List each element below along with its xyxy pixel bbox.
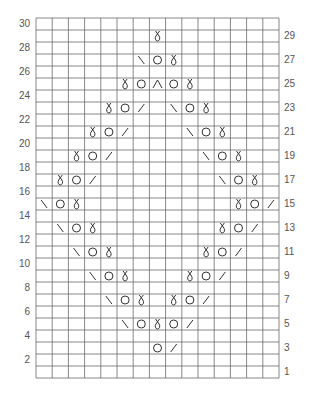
right-decrease-icon <box>252 224 258 232</box>
yarn-over-icon <box>121 296 129 304</box>
row-label: 9 <box>284 270 304 282</box>
row-label: 20 <box>0 138 30 150</box>
twisted-stitch-icon <box>123 271 128 281</box>
twisted-stitch-icon <box>58 175 63 185</box>
row-label: 5 <box>284 318 304 330</box>
row-label: 27 <box>284 54 304 66</box>
row-label: 23 <box>284 102 304 114</box>
yarn-over-icon <box>218 248 226 256</box>
row-label: 24 <box>0 90 30 102</box>
yarn-over-icon <box>170 320 178 328</box>
twisted-stitch-icon <box>90 223 95 233</box>
left-decrease-icon <box>171 104 177 112</box>
row-label: 8 <box>0 282 30 294</box>
yarn-over-icon <box>105 272 113 280</box>
left-decrease-icon <box>122 320 128 328</box>
twisted-stitch-icon <box>155 319 160 329</box>
twisted-stitch-icon <box>123 79 128 89</box>
twisted-stitch-icon <box>90 127 95 137</box>
left-decrease-icon <box>203 152 209 160</box>
twisted-stitch-icon <box>220 127 225 137</box>
grid-lines <box>36 18 279 378</box>
right-decrease-icon <box>138 104 144 112</box>
twisted-stitch-icon <box>252 175 257 185</box>
row-label: 12 <box>0 234 30 246</box>
row-label: 19 <box>284 150 304 162</box>
twisted-stitch-icon <box>74 151 79 161</box>
row-label: 3 <box>284 342 304 354</box>
row-label: 14 <box>0 210 30 222</box>
row-label: 17 <box>284 174 304 186</box>
row-label: 21 <box>284 126 304 138</box>
yarn-over-icon <box>202 128 210 136</box>
row-label: 18 <box>0 162 30 174</box>
yarn-over-icon <box>154 344 162 352</box>
yarn-over-icon <box>218 152 226 160</box>
twisted-stitch-icon <box>74 199 79 209</box>
yarn-over-icon <box>105 128 113 136</box>
left-decrease-icon <box>74 248 80 256</box>
yarn-over-icon <box>251 200 259 208</box>
yarn-over-icon <box>89 152 97 160</box>
row-label: 2 <box>0 354 30 366</box>
yarn-over-icon <box>170 80 178 88</box>
row-label: 4 <box>0 330 30 342</box>
twisted-stitch-icon <box>204 103 209 113</box>
right-decrease-icon <box>268 200 274 208</box>
yarn-over-icon <box>56 200 64 208</box>
right-decrease-icon <box>219 272 225 280</box>
left-decrease-icon <box>138 56 144 64</box>
row-label: 11 <box>284 246 304 258</box>
twisted-stitch-icon <box>188 271 193 281</box>
row-label: 30 <box>0 18 30 30</box>
twisted-stitch-icon <box>220 223 225 233</box>
yarn-over-icon <box>137 320 145 328</box>
yarn-over-icon <box>235 224 243 232</box>
yarn-over-icon <box>137 80 145 88</box>
right-decrease-icon <box>122 128 128 136</box>
row-label: 6 <box>0 306 30 318</box>
row-label: 22 <box>0 114 30 126</box>
row-label: 25 <box>284 78 304 90</box>
twisted-stitch-icon <box>204 247 209 257</box>
row-label: 29 <box>284 30 304 42</box>
chart-svg <box>36 18 279 378</box>
row-label: 28 <box>0 42 30 54</box>
left-decrease-icon <box>57 224 63 232</box>
row-label: 15 <box>284 198 304 210</box>
yarn-over-icon <box>73 176 81 184</box>
left-decrease-icon <box>187 128 193 136</box>
left-decrease-icon <box>41 200 47 208</box>
right-decrease-icon <box>187 320 193 328</box>
row-label: 16 <box>0 186 30 198</box>
right-decrease-icon <box>106 152 112 160</box>
yarn-over-icon <box>186 104 194 112</box>
twisted-stitch-icon <box>155 31 160 41</box>
twisted-stitch-icon <box>139 295 144 305</box>
yarn-over-icon <box>186 296 194 304</box>
twisted-stitch-icon <box>171 295 176 305</box>
double-decrease-icon <box>153 80 162 88</box>
yarn-over-icon <box>202 272 210 280</box>
twisted-stitch-icon <box>188 79 193 89</box>
row-label: 13 <box>284 222 304 234</box>
chart-grid <box>36 18 279 378</box>
twisted-stitch-icon <box>107 247 112 257</box>
right-decrease-icon <box>90 176 96 184</box>
twisted-stitch-icon <box>236 199 241 209</box>
yarn-over-icon <box>235 176 243 184</box>
row-label: 10 <box>0 258 30 270</box>
right-decrease-icon <box>203 296 209 304</box>
twisted-stitch-icon <box>236 151 241 161</box>
right-decrease-icon <box>171 344 177 352</box>
row-label: 1 <box>284 366 304 378</box>
row-label: 26 <box>0 66 30 78</box>
yarn-over-icon <box>154 56 162 64</box>
stitch-symbols <box>41 31 274 352</box>
row-label: 7 <box>284 294 304 306</box>
left-decrease-icon <box>90 272 96 280</box>
left-decrease-icon <box>219 176 225 184</box>
right-decrease-icon <box>236 248 242 256</box>
yarn-over-icon <box>89 248 97 256</box>
yarn-over-icon <box>73 224 81 232</box>
